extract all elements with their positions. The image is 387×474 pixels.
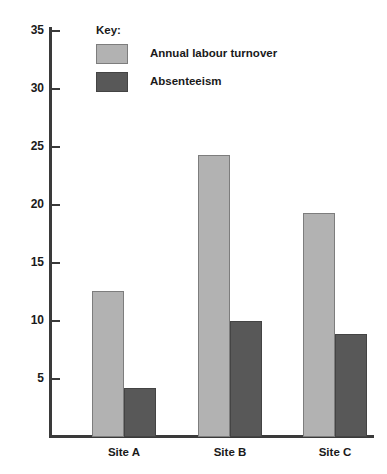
bar-site-a-absenteeism	[124, 388, 156, 437]
legend-item-annual-labour-turnover: Annual labour turnover	[96, 44, 277, 64]
legend: Key: Annual labour turnover Absenteeism	[96, 25, 277, 100]
legend-item-label: Annual labour turnover	[150, 48, 277, 60]
bar-site-a-annual-labour-turnover	[92, 291, 124, 437]
bar-site-b-annual-labour-turnover	[198, 155, 230, 437]
x-axis-label-site-a: Site A	[79, 447, 169, 459]
legend-item-label: Absenteeism	[150, 76, 222, 88]
legend-item-absenteeism: Absenteeism	[96, 72, 277, 92]
bar-chart: 35 30 25 20 15 10 5 Site A Site B Site C…	[0, 0, 387, 474]
x-axis-label-site-c: Site C	[290, 447, 380, 459]
legend-swatch-icon	[96, 44, 128, 64]
x-axis-label-site-b: Site B	[185, 447, 275, 459]
legend-swatch-icon	[96, 72, 128, 92]
bar-site-b-absenteeism	[230, 321, 262, 437]
bar-site-c-annual-labour-turnover	[303, 213, 335, 437]
legend-title: Key:	[96, 25, 277, 37]
bar-site-c-absenteeism	[335, 334, 367, 437]
